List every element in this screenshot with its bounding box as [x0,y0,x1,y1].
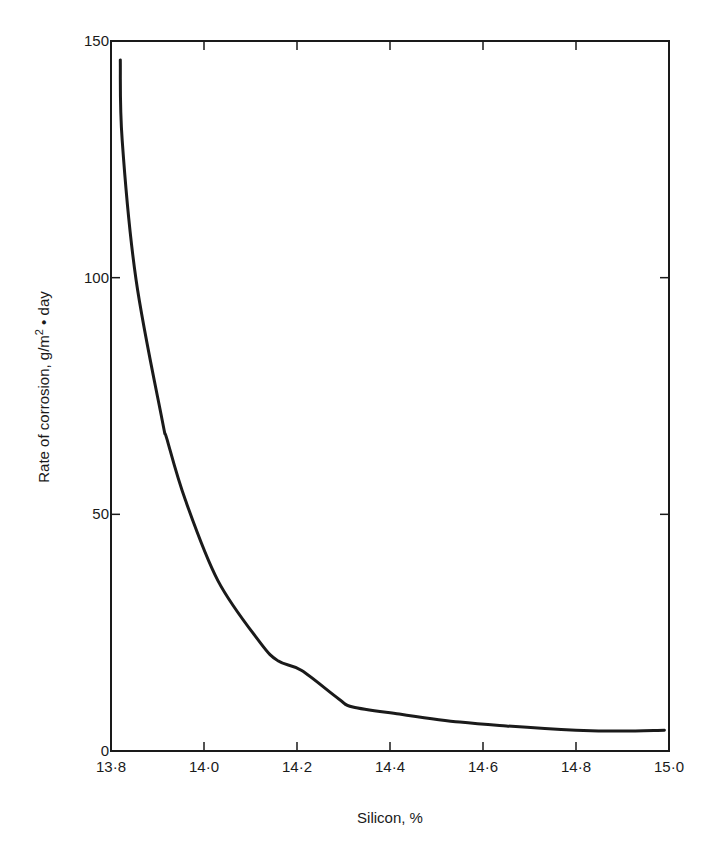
x-tick-labels: 13·814·014·214·414·614·815·0 [96,758,684,775]
x-tick-label: 14·8 [561,758,591,775]
y-axis-label: Rate of corrosion, g/m2 • day [33,291,52,483]
x-tick-label: 15·0 [654,758,684,775]
y-tick-label: 0 [101,742,109,759]
plot-frame [111,41,669,751]
x-tick-label: 14·2 [282,758,312,775]
x-axis-label: Silicon, % [357,809,423,826]
x-tick-label: 13·8 [96,758,126,775]
y-tick-label: 150 [84,32,109,49]
axis-ticks [111,41,669,751]
x-tick-label: 14·4 [375,758,405,775]
x-tick-label: 14·0 [189,758,219,775]
y-tick-label: 50 [92,505,109,522]
corrosion-curve [120,60,664,731]
y-tick-labels: 050100150 [84,32,109,759]
corrosion-chart: 13·814·014·214·414·614·815·0 050100150 S… [0,0,712,842]
x-tick-label: 14·6 [468,758,498,775]
plot-border [111,41,669,751]
y-tick-label: 100 [84,269,109,286]
